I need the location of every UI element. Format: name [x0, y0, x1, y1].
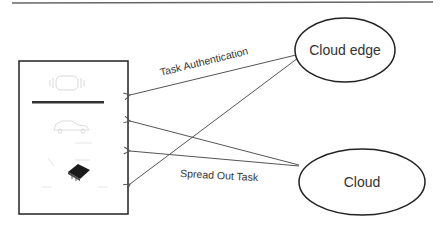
- cloud-edge-label: Cloud edge: [309, 42, 381, 58]
- separator-bar: [32, 101, 104, 104]
- top-divider: [12, 2, 433, 3]
- device-panel: [19, 61, 128, 214]
- edge-cloudedge-to-device: [130, 58, 298, 184]
- cloud-label: Cloud: [344, 174, 381, 190]
- cloud-node: Cloud: [299, 149, 425, 215]
- spread-out-task-label: Spread Out Task: [180, 167, 259, 183]
- diagram-canvas: Cloud edge Cloud Task Authentication Spr…: [0, 0, 443, 229]
- task-authentication-label: Task Authentication: [159, 44, 250, 78]
- cloud-edge-node: Cloud edge: [295, 18, 395, 82]
